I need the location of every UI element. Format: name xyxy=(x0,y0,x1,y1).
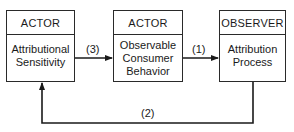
arrow-label-1: (1) xyxy=(192,43,205,55)
box-body-line: Behavior xyxy=(120,65,176,78)
box-body-line: Observable xyxy=(120,39,176,52)
box-body: Observable Consumer Behavior xyxy=(114,35,182,81)
arrow-label-2: (2) xyxy=(141,107,154,119)
box-body-line: Attributional xyxy=(11,43,69,56)
box-body-line: Attribution xyxy=(228,43,278,56)
box-header: ACTOR xyxy=(114,11,182,35)
box-body-line: Sensitivity xyxy=(11,56,69,69)
box-header: OBSERVER xyxy=(220,11,285,35)
box-body-line: Process xyxy=(228,56,278,69)
box-body-line: Consumer xyxy=(120,52,176,65)
arrow-label-3: (3) xyxy=(86,43,99,55)
box-observable-consumer-behavior: ACTOR Observable Consumer Behavior xyxy=(113,10,183,82)
box-body: Attribution Process xyxy=(220,35,285,81)
box-header: ACTOR xyxy=(7,11,74,35)
box-body: Attributional Sensitivity xyxy=(7,35,74,81)
box-attributional-sensitivity: ACTOR Attributional Sensitivity xyxy=(6,10,75,82)
box-attribution-process: OBSERVER Attribution Process xyxy=(219,10,286,82)
